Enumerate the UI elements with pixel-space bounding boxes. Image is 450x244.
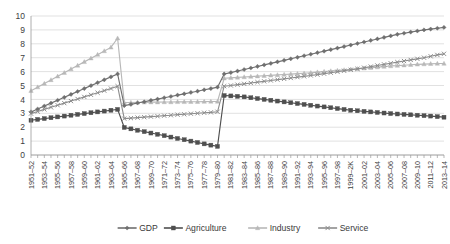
data-point-marker [395,32,399,36]
x-axis-tick-label: 1967–68 [133,161,142,189]
x-axis-tick-label: 2003–04 [373,161,382,189]
data-point-marker [375,37,379,41]
data-point-marker [235,69,239,73]
data-point-marker [329,106,333,110]
data-point-marker [49,116,53,120]
data-point-marker [125,226,129,230]
x-axis-tick-label: 1977–78 [200,161,209,189]
x-axis-labels: 1951–521953–541955–561957–581959–601961–… [27,161,449,190]
x-axis-tick-label: 1993–94 [306,161,315,189]
data-point-marker [149,131,153,135]
x-axis-tick-label: 1979–80 [213,161,222,189]
x-axis-tick-label: 1973–74 [173,161,182,189]
data-point-marker [76,112,80,116]
y-axis-tick-label: 10 [16,11,26,21]
series-gdp [29,25,446,114]
y-axis-tick-label: 4 [20,95,25,105]
data-point-marker [422,28,426,32]
data-point-marker [382,111,386,115]
data-point-marker [129,127,133,131]
legend-item-agriculture[interactable]: Agriculture [164,223,227,233]
legend-item-industry[interactable]: Industry [248,223,301,233]
chart-legend: GDPAgricultureIndustryService [118,223,369,233]
x-axis-tick-label: 1957–58 [67,161,76,189]
x-axis-tick-label: 1995–96 [320,161,329,189]
line-chart: 012345678910 1951–521953–541955–561957–5… [0,0,450,244]
x-axis-tick-label: 1961–62 [93,161,102,189]
data-point-marker [262,97,266,101]
x-axis-tick-label: 1997–98 [333,161,342,189]
data-point-marker [82,112,86,116]
data-point-marker [229,94,233,98]
data-point-marker [42,117,46,121]
y-axis-tick-label: 2 [20,122,25,132]
data-point-marker [435,115,439,119]
y-axis-labels: 012345678910 [16,11,26,160]
y-axis-tick-label: 3 [20,108,25,118]
data-point-marker [102,109,106,113]
data-point-marker [182,92,186,96]
legend-item-gdp[interactable]: GDP [118,223,158,233]
data-point-marker [242,95,246,99]
legend-label: Service [340,223,369,233]
data-point-marker [36,117,40,121]
data-point-marker [155,97,159,101]
data-point-marker [362,109,366,113]
data-point-marker [142,130,146,134]
data-point-marker [162,134,166,138]
x-axis-ticks [31,155,444,158]
data-point-marker [62,114,66,118]
data-point-marker [329,48,333,52]
data-point-marker [62,95,66,99]
legend-label: GDP [139,223,158,233]
y-axis-tick-label: 1 [20,136,25,146]
data-point-marker [222,72,226,76]
data-point-marker [389,34,393,38]
data-point-marker [315,104,319,108]
x-axis-tick-label: 1953–54 [40,161,49,189]
data-point-marker [249,96,253,100]
data-point-marker [309,103,313,107]
data-point-marker [282,100,286,104]
series-agriculture [29,94,446,149]
data-point-marker [76,89,80,93]
data-point-marker [89,84,93,88]
x-axis-tick-label: 2013–14 [440,161,449,189]
data-point-marker [369,110,373,114]
y-axis-tick-label: 5 [20,81,25,91]
data-point-marker [156,132,160,136]
data-point-marker [89,111,93,115]
x-axis-tick-label: 1985–86 [253,161,262,189]
data-point-marker [122,125,126,129]
data-point-marker [109,75,113,79]
data-point-marker [229,70,233,74]
x-axis-tick-label: 1981–82 [226,161,235,189]
data-point-marker [409,30,413,34]
x-axis-tick-label: 2007–08 [400,161,409,189]
data-point-marker [255,64,259,68]
x-axis-tick-label: 2011–12 [426,161,435,188]
data-point-marker [69,113,73,117]
data-point-marker [322,49,326,53]
y-axis-tick-label: 9 [20,25,25,35]
data-point-marker [375,110,379,114]
legend-item-service[interactable]: Service [318,223,368,233]
data-point-marker [69,92,73,96]
data-point-marker [176,136,180,140]
legend-label: Agriculture [185,223,226,233]
data-point-marker [56,98,60,102]
data-point-marker [275,60,279,64]
data-point-marker [196,140,200,144]
data-point-marker [342,44,346,48]
data-point-marker [116,107,120,111]
series-line [31,54,444,119]
data-point-marker [335,46,339,50]
data-point-marker [169,94,173,98]
data-point-marker [262,63,266,67]
x-axis-tick-label: 1955–56 [53,161,62,189]
data-point-marker [442,115,446,119]
data-point-marker [322,105,326,109]
data-point-marker [171,226,175,230]
data-point-marker [109,108,113,112]
legend-label: Industry [270,223,301,233]
